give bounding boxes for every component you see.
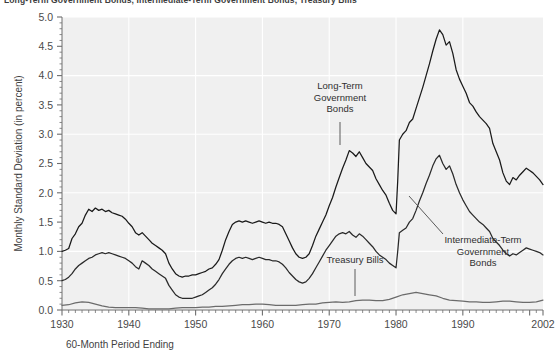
y-tick-label: 4.0 bbox=[38, 69, 53, 81]
x-tick-label: 1980 bbox=[384, 318, 408, 330]
x-tick-label: 1960 bbox=[251, 318, 275, 330]
x-tick-label: 1950 bbox=[184, 318, 208, 330]
x-tick-label: 1990 bbox=[451, 318, 475, 330]
x-tick-label: 2002 bbox=[531, 318, 555, 330]
y-tick-label: 3.0 bbox=[38, 128, 53, 140]
x-tick-label: 1930 bbox=[50, 318, 74, 330]
annotation-tbills: Treasury Bills bbox=[326, 254, 383, 265]
y-axis-title: Monthly Standard Deviation (in percent) bbox=[13, 75, 24, 251]
y-tick-label: 3.5 bbox=[38, 99, 53, 111]
x-tick-label: 1970 bbox=[318, 318, 342, 330]
y-tick-label: 0.0 bbox=[38, 304, 53, 316]
x-axis-title: 60-Month Period Ending bbox=[66, 339, 174, 350]
y-tick-label: 4.5 bbox=[38, 40, 53, 52]
y-tick-label: 2.0 bbox=[38, 187, 53, 199]
y-tick-label: 2.5 bbox=[38, 157, 53, 169]
y-tick-label: 5.0 bbox=[38, 11, 53, 23]
chart-plot-svg: 0.00.51.01.52.02.53.03.54.04.55.0 193019… bbox=[0, 0, 555, 351]
y-axis-ticks: 0.00.51.01.52.02.53.03.54.04.55.0 bbox=[38, 11, 62, 316]
y-tick-label: 0.5 bbox=[38, 275, 53, 287]
y-tick-label: 1.0 bbox=[38, 245, 53, 257]
x-tick-label: 1940 bbox=[117, 318, 141, 330]
y-tick-label: 1.5 bbox=[38, 216, 53, 228]
x-axis-ticks: 19301940195019601970198019902002 bbox=[50, 310, 555, 330]
chart-container: Long-Term Government Bonds, Intermediate… bbox=[0, 0, 555, 351]
